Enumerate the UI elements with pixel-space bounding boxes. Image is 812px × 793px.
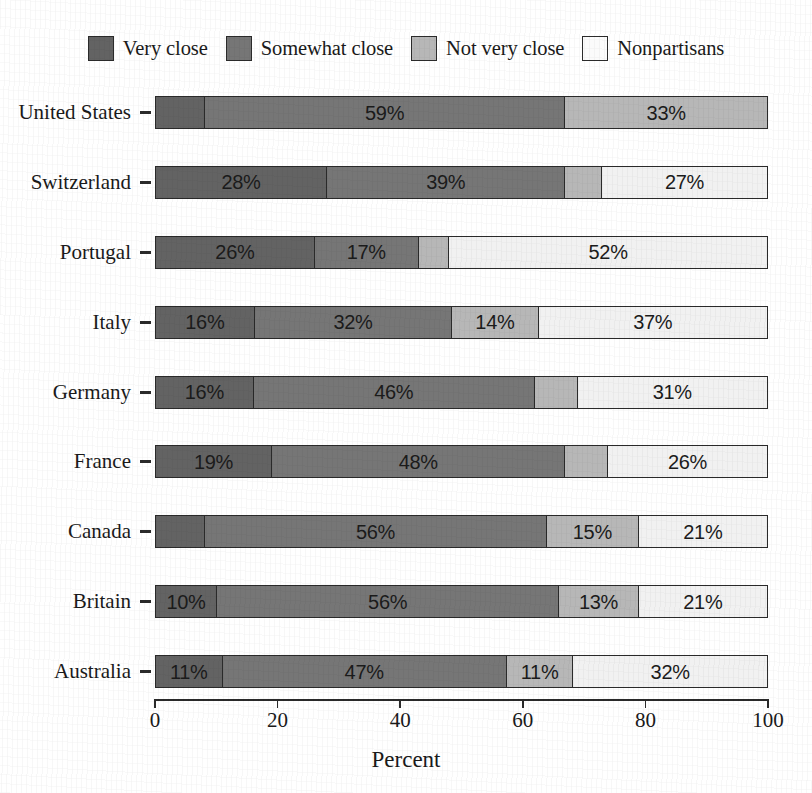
bar-segment-value-label: 32%: [333, 312, 372, 332]
bar-segment: 11%: [507, 656, 574, 687]
x-axis-tick-mark-icon: [645, 699, 647, 708]
bar-segment: 27%: [602, 167, 767, 198]
legend-item: Nonpartisans: [582, 36, 724, 61]
bar-segment: [565, 167, 602, 198]
y-axis-tick-mark-icon: [140, 251, 151, 254]
x-axis-title: Percent: [0, 748, 812, 771]
bar-segment: 11%: [156, 656, 223, 687]
y-axis-tick-text: Australia: [54, 661, 131, 682]
bar-row: 16%46%31%: [155, 376, 768, 409]
bar-segment: 28%: [156, 167, 327, 198]
bar-segment-value-label: 16%: [185, 312, 224, 332]
y-axis-tick-mark-icon: [140, 391, 151, 394]
bar-segment-value-label: 46%: [374, 382, 413, 402]
legend-swatch-icon: [226, 36, 252, 61]
y-axis-tick-label: Portugal: [5, 236, 155, 269]
y-axis-tick-text: Portugal: [60, 242, 131, 263]
bar-segment: 56%: [217, 586, 559, 617]
bar-segment: 52%: [449, 237, 767, 268]
y-axis-tick-mark-icon: [140, 670, 151, 673]
bar-segment: 37%: [539, 307, 767, 338]
y-axis-tick-label: Britain: [5, 585, 155, 618]
y-axis-tick-text: Italy: [93, 312, 131, 333]
bar-segment-value-label: 26%: [215, 242, 254, 262]
bar-row: 10%56%13%21%: [155, 585, 768, 618]
x-axis-tick-label: 60: [512, 710, 533, 731]
bar-segment: [419, 237, 450, 268]
bar-segment-value-label: 59%: [365, 103, 404, 123]
bar-segment-value-label: 11%: [170, 662, 208, 682]
bar-segment: 10%: [156, 586, 217, 617]
y-axis-tick-label: France: [5, 445, 155, 478]
y-axis-tick-mark-icon: [140, 181, 151, 184]
legend-item: Not very close: [411, 36, 564, 61]
y-axis-tick-mark-icon: [140, 460, 151, 463]
bar-segment-value-label: 15%: [573, 522, 612, 542]
bar-segment-value-label: 26%: [668, 452, 707, 472]
x-axis-line: [155, 699, 768, 701]
x-axis-tick-mark-icon: [767, 699, 769, 708]
x-axis-tick-mark-icon: [399, 699, 401, 708]
bar-segment: 48%: [272, 446, 565, 477]
y-axis-tick-label: Canada: [5, 515, 155, 548]
bar-segment: 56%: [205, 516, 547, 547]
legend-item: Somewhat close: [226, 36, 393, 61]
bar-segment-value-label: 13%: [579, 592, 618, 612]
bar-segment-value-label: 31%: [653, 382, 692, 402]
y-axis-tick-label: Italy: [5, 306, 155, 339]
bar-segment-value-label: 27%: [665, 172, 704, 192]
bar-segment: 19%: [156, 446, 272, 477]
bar-segment-value-label: 28%: [221, 172, 260, 192]
bar-row: 11%47%11%32%: [155, 655, 768, 688]
bar-segment-value-label: 48%: [399, 452, 438, 472]
bar-segment: 14%: [452, 307, 538, 338]
y-axis-tick-text: Germany: [53, 382, 131, 403]
bar-segment-value-label: 14%: [475, 312, 514, 332]
bar-segment-value-label: 37%: [633, 312, 672, 332]
bar-segment-value-label: 17%: [347, 242, 386, 262]
bar-row: 59%33%: [155, 96, 768, 129]
x-axis-tick-label: 20: [267, 710, 288, 731]
y-axis-tick-mark-icon: [140, 321, 151, 324]
y-axis-labels: United StatesSwitzerlandPortugalItalyGer…: [0, 96, 155, 688]
bar-segment-value-label: 10%: [166, 592, 205, 612]
bar-segment-value-label: 56%: [356, 522, 395, 542]
bar-segment: 39%: [327, 167, 565, 198]
bar-row: 28%39%27%: [155, 166, 768, 199]
bar-segment: 32%: [255, 307, 452, 338]
x-axis-tick-label: 100: [752, 710, 784, 731]
bar-segment-value-label: 16%: [185, 382, 224, 402]
bar-segment: 33%: [565, 97, 767, 128]
bar-segment: 13%: [559, 586, 638, 617]
y-axis-tick-mark-icon: [140, 600, 151, 603]
bar-segment-value-label: 52%: [589, 242, 628, 262]
legend-label: Somewhat close: [261, 38, 393, 59]
legend-swatch-icon: [411, 36, 437, 61]
bar-row: 26%17%52%: [155, 236, 768, 269]
y-axis-tick-label: Germany: [5, 376, 155, 409]
legend-label: Very close: [123, 38, 208, 59]
legend-label: Nonpartisans: [617, 38, 724, 59]
bar-segment-value-label: 39%: [426, 172, 465, 192]
plot-area: 59%33%28%39%27%26%17%52%16%32%14%37%16%4…: [155, 96, 768, 688]
bar-segment-value-label: 21%: [683, 522, 722, 542]
bar-segment-value-label: 21%: [683, 592, 722, 612]
y-axis-tick-label: Australia: [5, 655, 155, 688]
x-axis-tick-mark-icon: [277, 699, 279, 708]
bar-segment: 21%: [639, 586, 767, 617]
bar-segment: 31%: [578, 377, 767, 408]
bar-segment: [565, 446, 608, 477]
bar-row: 16%32%14%37%: [155, 306, 768, 339]
bar-segment: 16%: [156, 307, 255, 338]
bar-segment-value-label: 33%: [647, 103, 686, 123]
x-axis-tick-mark-icon: [522, 699, 524, 708]
bar-segment-value-label: 56%: [368, 592, 407, 612]
bar-segment-value-label: 19%: [194, 452, 233, 472]
bar-row: 56%15%21%: [155, 515, 768, 548]
bar-segment: 59%: [205, 97, 565, 128]
bar-segment: 47%: [223, 656, 507, 687]
y-axis-tick-label: Switzerland: [5, 166, 155, 199]
y-axis-tick-text: Switzerland: [31, 172, 131, 193]
bar-segment: 15%: [547, 516, 639, 547]
bar-segment: 26%: [156, 237, 315, 268]
